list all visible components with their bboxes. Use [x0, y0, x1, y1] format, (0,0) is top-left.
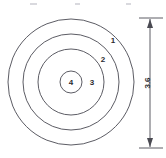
scan-artifacts: [30, 3, 131, 5]
dimension-arrowhead-bottom: [147, 138, 153, 147]
zone-label-1: 1: [111, 36, 116, 45]
zone-label-3: 3: [90, 78, 95, 87]
dimension-overall-height: 3.6: [139, 18, 163, 148]
zone-label-4: 4: [69, 78, 74, 87]
dimension-value-label: 3.6: [143, 77, 152, 89]
scan-speck: [30, 3, 37, 5]
concentric-zone-diagram: 1 2 3 4 3.6: [0, 0, 166, 158]
diagram-canvas: 1 2 3 4 3.6: [0, 0, 166, 158]
dimension-arrowhead-top: [147, 19, 153, 28]
scan-speck: [126, 3, 131, 5]
zone-labels: 1 2 3 4: [69, 36, 116, 87]
zone-label-2: 2: [101, 55, 106, 64]
scan-speck: [75, 3, 80, 5]
